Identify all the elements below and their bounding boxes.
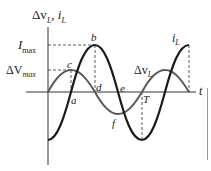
y-label-current: , i — [51, 7, 61, 22]
vmax-sub: max — [22, 70, 35, 79]
page-edge-divider — [207, 88, 208, 160]
point-label-f: f — [112, 118, 115, 129]
y-label-sub-L2: L — [61, 16, 65, 25]
imax-label: Imax — [18, 38, 36, 55]
t-axis-label: t — [199, 85, 202, 97]
inductor-ac-graph: ΔvL, iL Imax ΔVmax b c a d e f T iL ΔvL … — [0, 0, 211, 171]
vmax-main: ΔV — [6, 63, 22, 77]
voltage-main: Δv — [134, 63, 148, 77]
y-label-voltage: Δv — [32, 7, 47, 22]
point-label-c: c — [67, 59, 72, 70]
point-label-b: b — [91, 32, 97, 43]
point-label-a: a — [71, 95, 77, 106]
point-label-d: d — [96, 82, 102, 93]
voltage-curve-label: ΔvL — [134, 64, 152, 79]
imax-sub: max — [22, 46, 36, 55]
vmax-label: ΔVmax — [6, 64, 36, 79]
voltage-sub: L — [148, 70, 152, 79]
point-label-e: e — [120, 83, 125, 94]
y-axis-label: ΔvL, iL — [32, 8, 66, 25]
graph-canvas — [0, 0, 211, 171]
point-label-T: T — [143, 94, 149, 105]
current-curve-label: iL — [172, 32, 180, 47]
current-sub: L — [175, 38, 179, 47]
